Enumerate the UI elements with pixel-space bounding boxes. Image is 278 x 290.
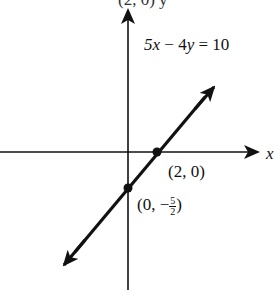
equation-label: 5x − 4y = 10 (144, 36, 229, 53)
x-axis-label: x (266, 145, 274, 162)
point-y-intercept (124, 184, 133, 193)
point-label-y-intercept: (0, −52) (137, 196, 182, 217)
cutoff-text: (2, 0) y (118, 0, 168, 8)
point-x-intercept (153, 148, 162, 157)
label-suffix: ) (176, 195, 182, 214)
equation-line-arrow-up (195, 87, 214, 109)
equation-line-arrow-down (64, 240, 85, 265)
graph-canvas (0, 0, 278, 290)
point-label-x-intercept: (2, 0) (168, 163, 205, 180)
label-prefix: (0, − (137, 195, 169, 214)
